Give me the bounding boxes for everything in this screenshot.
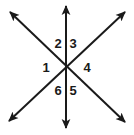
angle-label-4: 4 xyxy=(81,61,93,74)
diagram-canvas xyxy=(0,0,134,135)
line-group xyxy=(9,6,125,128)
angle-label-3: 3 xyxy=(67,37,79,50)
angle-diagram: 1 2 3 4 5 6 xyxy=(0,0,134,135)
angle-label-6: 6 xyxy=(52,84,64,97)
angle-label-5: 5 xyxy=(67,84,79,97)
angle-label-1: 1 xyxy=(40,61,52,74)
angle-label-2: 2 xyxy=(52,37,64,50)
